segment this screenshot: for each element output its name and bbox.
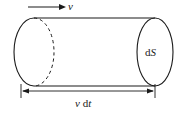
velocity-label: v [68, 1, 73, 12]
area-element-label: dS [145, 47, 156, 58]
left-cap-hidden-dashed-arc [34, 18, 54, 86]
velocity-arrow-icon [28, 4, 66, 10]
area-element-S: S [151, 46, 157, 58]
length-label: v dt [75, 98, 91, 109]
left-cap-solid-arc [14, 18, 34, 86]
dimension-left-arrowhead [22, 88, 29, 93]
figure-canvas [0, 0, 183, 117]
cylinder-flux-figure: v dS v dt [0, 0, 183, 117]
dimension-right-arrowhead [147, 88, 154, 93]
length-t: t [88, 97, 91, 109]
velocity-arrow-head [59, 4, 66, 10]
